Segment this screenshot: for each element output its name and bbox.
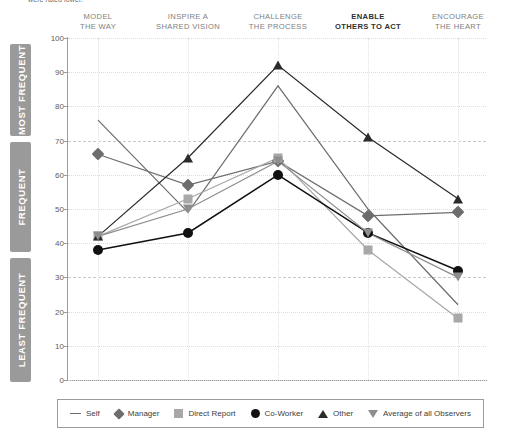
y-tick-label-100: 100 bbox=[38, 34, 64, 43]
band-most-frequent: MOST FREQUENT bbox=[10, 44, 31, 136]
data-point-square-1 bbox=[184, 194, 193, 203]
y-tick-label-20: 20 bbox=[38, 307, 64, 316]
data-point-triangle-up-1 bbox=[183, 153, 193, 162]
data-point-triangle-down-2 bbox=[273, 157, 283, 166]
y-tick-label-80: 80 bbox=[38, 102, 64, 111]
y-tick-mark-0 bbox=[64, 380, 68, 381]
legend-item-0[interactable]: Self bbox=[70, 409, 100, 418]
legend-item-label: Average of all Observers bbox=[383, 409, 471, 418]
y-tick-label-60: 60 bbox=[38, 170, 64, 179]
chart-legend: SelfManagerDirect ReportCo-WorkerOtherAv… bbox=[57, 399, 484, 428]
circle-glyph bbox=[251, 409, 260, 418]
band-least-frequent: LEAST FREQUENT bbox=[10, 258, 31, 382]
data-point-square-3 bbox=[364, 246, 373, 255]
data-point-triangle-down-4 bbox=[453, 273, 463, 282]
legend-item-3[interactable]: Co-Worker bbox=[251, 409, 304, 418]
y-tick-label-50: 50 bbox=[38, 205, 64, 214]
y-tick-label-0: 0 bbox=[38, 376, 64, 385]
x-axis-label-1: INSPIRE A SHARED VISION bbox=[156, 12, 220, 31]
data-point-circle-1 bbox=[183, 228, 193, 238]
x-axis-label-0: MODEL THE WAY bbox=[80, 12, 116, 31]
y-tick-label-40: 40 bbox=[38, 239, 64, 248]
legend-item-label: Direct Report bbox=[188, 409, 235, 418]
triangle-up-glyph bbox=[318, 410, 328, 418]
triangle-down-glyph bbox=[368, 410, 378, 418]
square-glyph bbox=[174, 409, 183, 418]
x-axis-label-3: ENABLE OTHERS TO ACT bbox=[335, 12, 401, 31]
legend-item-label: Manager bbox=[128, 409, 160, 418]
legend-item-2[interactable]: Direct Report bbox=[174, 409, 235, 418]
x-axis-label-2: CHALLENGE THE PROCESS bbox=[249, 12, 307, 31]
data-point-triangle-down-0 bbox=[93, 232, 103, 241]
data-point-square-4 bbox=[454, 314, 463, 323]
y-tick-label-90: 90 bbox=[38, 68, 64, 77]
data-point-triangle-up-3 bbox=[363, 133, 373, 142]
legend-item-4[interactable]: Other bbox=[318, 409, 353, 418]
diamond-glyph bbox=[113, 408, 124, 419]
band-frequent-label: FREQUENT bbox=[15, 168, 26, 225]
legend-item-5[interactable]: Average of all Observers bbox=[368, 409, 471, 418]
series-lines bbox=[68, 38, 486, 380]
band-least-frequent-label: LEAST FREQUENT bbox=[15, 273, 26, 367]
series-line-2 bbox=[98, 158, 458, 319]
data-point-triangle-down-1 bbox=[183, 205, 193, 214]
y-tick-label-10: 10 bbox=[38, 341, 64, 350]
x-axis-label-4: ENCOURAGE THE HEART bbox=[432, 12, 484, 31]
plot-area: 0102030405060708090100 MODEL THE WAYINSP… bbox=[68, 38, 486, 380]
legend-item-1[interactable]: Manager bbox=[115, 409, 160, 418]
line-glyph bbox=[70, 413, 81, 415]
band-most-frequent-label: MOST FREQUENT bbox=[15, 45, 26, 135]
data-point-triangle-up-2 bbox=[273, 61, 283, 70]
chart-page: were rated lower. MOST FREQUENT FREQUENT… bbox=[0, 0, 508, 441]
y-tick-label-30: 30 bbox=[38, 273, 64, 282]
data-point-triangle-down-3 bbox=[363, 228, 373, 237]
series-line-4 bbox=[98, 65, 458, 236]
band-frequent: FREQUENT bbox=[10, 142, 31, 252]
data-point-circle-2 bbox=[273, 170, 283, 180]
data-point-triangle-up-4 bbox=[453, 194, 463, 203]
top-cutoff-note: were rated lower. bbox=[28, 0, 83, 3]
series-line-0 bbox=[98, 86, 458, 305]
legend-item-label: Self bbox=[86, 409, 100, 418]
gridline-0 bbox=[68, 380, 486, 381]
legend-item-label: Co-Worker bbox=[265, 409, 304, 418]
legend-item-label: Other bbox=[333, 409, 353, 418]
data-point-circle-0 bbox=[93, 245, 103, 255]
y-tick-label-70: 70 bbox=[38, 136, 64, 145]
